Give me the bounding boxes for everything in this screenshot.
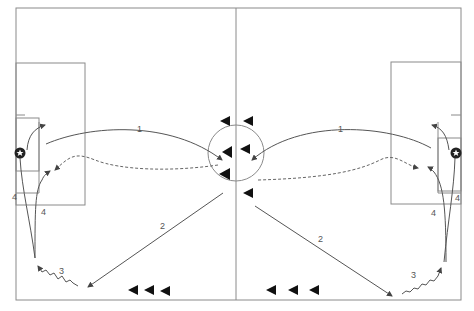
player-triangle-icon xyxy=(144,285,154,295)
left-shot-a xyxy=(20,158,35,258)
pass-2-lines xyxy=(88,193,392,296)
player-triangle-icon xyxy=(128,285,138,295)
right-pass-2 xyxy=(255,206,392,296)
player-triangle-icon xyxy=(222,146,232,158)
left-pass-2 xyxy=(88,193,223,287)
player-triangle-icon xyxy=(266,285,276,295)
left-dribble xyxy=(38,266,78,286)
left-shot-to-goal xyxy=(27,125,45,150)
left-run xyxy=(55,156,218,170)
player-triangle-icon xyxy=(220,116,230,126)
label-right-dribble: 3 xyxy=(411,271,416,280)
right-penalty-area xyxy=(391,62,461,204)
left-pass-1 xyxy=(46,130,222,160)
soccer-drill-diagram: 1 1 2 2 3 3 4 4 4 4 xyxy=(0,0,474,311)
left-penalty-area xyxy=(16,63,85,205)
players xyxy=(128,116,319,296)
label-right-pass-2: 2 xyxy=(318,235,323,244)
player-triangle-icon xyxy=(288,285,298,295)
soccer-ball-icon xyxy=(15,148,26,159)
field-canvas xyxy=(0,0,474,311)
label-right-shot-a: 4 xyxy=(431,209,436,218)
player-triangle-icon xyxy=(309,285,319,295)
player-triangle-icon xyxy=(243,188,253,198)
label-left-pass-1: 1 xyxy=(137,125,142,134)
right-dribble xyxy=(402,268,441,294)
player-triangle-icon xyxy=(243,116,253,126)
field-boundary xyxy=(16,8,461,300)
label-left-shot-a: 4 xyxy=(12,193,17,202)
right-goal-area xyxy=(438,138,461,191)
right-run xyxy=(258,157,418,180)
label-left-pass-2: 2 xyxy=(160,222,165,231)
label-left-shot-b: 4 xyxy=(41,208,46,217)
label-right-pass-1: 1 xyxy=(338,125,343,134)
player-triangle-icon xyxy=(240,144,250,154)
field-lines xyxy=(16,8,461,300)
label-left-dribble: 3 xyxy=(59,267,64,276)
label-right-shot-b: 4 xyxy=(455,194,460,203)
player-triangle-icon xyxy=(160,286,170,296)
soccer-ball-icon xyxy=(451,148,462,159)
pass-1-lines xyxy=(46,130,431,160)
right-pass-1 xyxy=(252,130,431,160)
